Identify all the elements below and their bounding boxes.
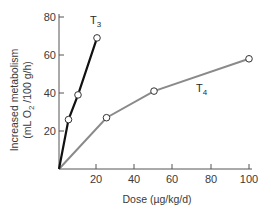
y-ticks: 20 40 60 80	[44, 11, 64, 137]
data-point-marker	[151, 88, 158, 95]
x-tick-label: 20	[90, 173, 102, 185]
y-tick-label: 60	[44, 49, 56, 61]
x-tick-label: 40	[128, 173, 140, 185]
x-tick-label: 60	[166, 173, 178, 185]
y-axis-label-line2: (mL O2 /100 g/h)	[21, 61, 36, 139]
series-layer	[59, 35, 252, 169]
data-point-marker	[246, 56, 253, 63]
x-tick-label: 80	[205, 173, 217, 185]
x-tick-label: 100	[240, 173, 258, 185]
x-axis-label: Dose (µg/kg/d)	[122, 193, 191, 205]
y-axis-label: Increased metabolism (mL O2 /100 g/h)	[8, 48, 36, 151]
data-point-marker	[94, 35, 101, 42]
series-line-t4	[59, 59, 249, 169]
x-ticks: 20 40 60 80 100	[90, 164, 258, 185]
y-tick-label: 20	[44, 125, 56, 137]
y-axis-label-line1: Increased metabolism	[8, 48, 20, 151]
data-point-marker	[103, 114, 110, 121]
data-point-marker	[65, 116, 72, 123]
y-tick-label: 40	[44, 87, 56, 99]
y-tick-label: 80	[44, 11, 56, 23]
series-label-t4: T4	[196, 82, 208, 97]
series-label-t3: T3	[90, 14, 102, 29]
chart: 20 40 60 80 20 40 60 80 100 Dose (µg/kg/…	[0, 0, 271, 212]
data-point-marker	[75, 92, 82, 99]
